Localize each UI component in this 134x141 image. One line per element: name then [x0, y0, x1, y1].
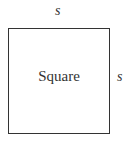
top-side-label: s — [55, 3, 60, 19]
right-side-label: s — [117, 69, 122, 85]
square-name-label: Square — [8, 68, 110, 85]
